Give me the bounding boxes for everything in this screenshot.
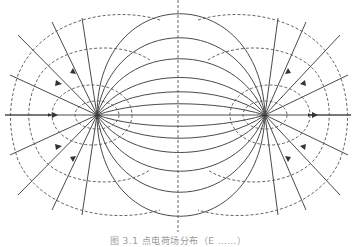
- negative-charge: −: [260, 109, 269, 122]
- dipole-field-diagram: + −: [0, 0, 356, 247]
- svg-text:−: −: [260, 109, 269, 122]
- svg-text:+: +: [93, 109, 102, 122]
- figure-caption: 图 3.1 点电荷场分布（E ……）: [0, 234, 356, 247]
- positive-charge: +: [93, 109, 102, 122]
- equipotential-lines: [11, 0, 348, 232]
